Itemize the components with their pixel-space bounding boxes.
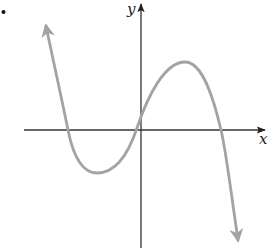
x-axis-label: x [259, 130, 268, 148]
function-graph: y x [0, 0, 268, 248]
y-axis-label: y [126, 0, 136, 18]
cubic-curve [46, 26, 238, 240]
list-bullet [2, 10, 6, 14]
